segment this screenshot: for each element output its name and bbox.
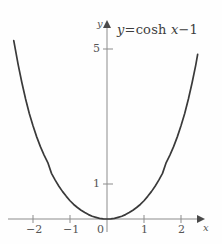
x-tick-label-pos1: 1 bbox=[141, 224, 148, 235]
y-tick-label-1: 1 bbox=[93, 178, 100, 189]
equation-annotation: y=cosh x−1 bbox=[117, 23, 198, 36]
figure-canvas: −2 −1 0 1 2 1 5 x y y=cosh x−1 bbox=[0, 0, 222, 244]
y-tick-label-5: 5 bbox=[93, 43, 100, 54]
equation-lhs: y bbox=[117, 22, 125, 37]
x-axis-label: x bbox=[203, 223, 209, 233]
equation-minus: − bbox=[178, 22, 189, 37]
cosh-curve bbox=[14, 41, 198, 219]
x-tick-label-pos2: 2 bbox=[178, 224, 185, 235]
x-tick-label-neg2: −2 bbox=[26, 224, 42, 235]
y-axis-arrow-icon bbox=[103, 20, 111, 28]
equation-constant: 1 bbox=[190, 22, 198, 37]
equation-function: cosh bbox=[136, 22, 167, 37]
equation-equals: = bbox=[125, 22, 136, 37]
x-tick-label-neg1: −1 bbox=[63, 224, 79, 235]
y-axis-label: y bbox=[97, 19, 103, 29]
origin-label: 0 bbox=[97, 224, 104, 235]
